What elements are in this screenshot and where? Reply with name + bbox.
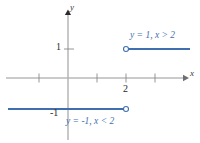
x-axis-arrowhead <box>183 75 189 81</box>
y-tick-label-1: 1 <box>56 42 61 52</box>
open-endpoint-upper <box>124 47 129 52</box>
open-endpoint-lower <box>124 107 129 112</box>
y-tick-label-minus-1: -1 <box>50 108 58 118</box>
annotation-lower-branch: y = -1, x < 2 <box>66 117 114 127</box>
y-axis-label: y <box>70 3 74 12</box>
annotation-upper-branch: y = 1, x > 2 <box>130 31 175 41</box>
x-axis-label: x <box>190 69 194 78</box>
x-tick-label-2: 2 <box>123 84 128 94</box>
figure-piecewise-graph: y x 1 -1 2 y = 1, x > 2 y = -1, x < 2 <box>0 0 200 143</box>
